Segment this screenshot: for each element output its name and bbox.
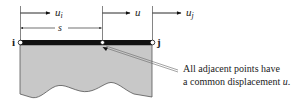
node-j-marker [150,40,155,45]
node-label-i: i [12,36,15,48]
element-body [20,45,152,98]
element-bar [20,40,152,45]
distance-label: s [58,22,62,33]
displacement-label-middle: u [135,6,141,18]
element-diagram: ui u uj s i j All adjacent points have a… [0,0,308,101]
node-middle-marker [101,41,105,45]
displacement-label-i: ui [55,6,63,20]
displacement-label-j: uj [186,6,195,20]
annotation-line-1: All adjacent points have [183,63,280,74]
annotation-line-2: a common displacement u. [183,76,290,87]
node-i-marker [18,40,23,45]
node-label-j: j [156,36,161,48]
